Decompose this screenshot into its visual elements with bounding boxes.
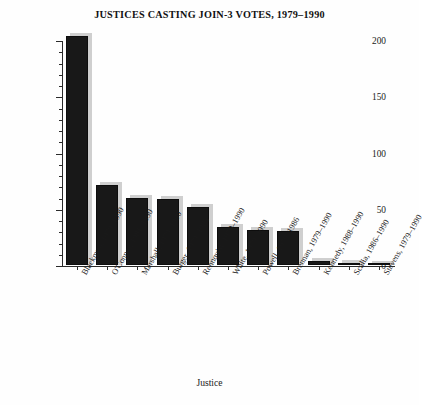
y-tick-major (56, 154, 62, 155)
y-tick-minor (59, 165, 63, 166)
bar (66, 36, 88, 266)
y-tick-minor (59, 75, 63, 76)
y-tick-minor (59, 52, 63, 53)
y-tick-minor (59, 142, 63, 143)
x-tick (258, 266, 259, 270)
x-tick (379, 266, 380, 270)
x-tick (107, 266, 108, 270)
y-tick-label: 50 (377, 205, 386, 215)
x-axis-label: Justice (0, 377, 419, 388)
y-tick-label: 200 (372, 36, 386, 46)
x-tick (198, 266, 199, 270)
y-tick-minor (59, 199, 63, 200)
x-tick (349, 266, 350, 270)
y-tick-minor (59, 244, 63, 245)
chart-title: JUSTICES CASTING JOIN-3 VOTES, 1979–1990 (0, 9, 419, 20)
x-tick (137, 266, 138, 270)
y-tick-minor (59, 176, 63, 177)
y-tick-minor (59, 187, 63, 188)
y-tick-label: 150 (372, 92, 386, 102)
y-tick-minor (59, 86, 63, 87)
x-tick (77, 266, 78, 270)
y-axis-line (62, 41, 63, 267)
y-tick-major (56, 266, 62, 267)
y-tick-major (56, 41, 62, 42)
y-tick-minor (59, 120, 63, 121)
x-tick (288, 266, 289, 270)
y-tick-minor (59, 232, 63, 233)
y-tick-minor (59, 131, 63, 132)
x-tick (228, 266, 229, 270)
y-tick-major (56, 210, 62, 211)
y-tick-label: 100 (372, 149, 386, 159)
y-tick-minor (59, 221, 63, 222)
y-tick-minor (59, 255, 63, 256)
x-tick (168, 266, 169, 270)
x-tick (319, 266, 320, 270)
y-tick-minor (59, 64, 63, 65)
y-tick-major (56, 97, 62, 98)
y-tick-minor (59, 109, 63, 110)
